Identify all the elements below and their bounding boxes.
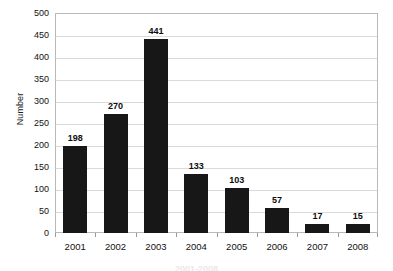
- x-axis-tick: [55, 233, 56, 237]
- bar-group: 270: [95, 13, 135, 233]
- x-axis-tick-label: 2002: [105, 241, 126, 252]
- bar-chart: Number 500450400350300250200150100500 19…: [0, 0, 393, 271]
- bar-value-label: 17: [312, 212, 322, 221]
- bar-value-label: 103: [229, 176, 244, 185]
- bar-value-label: 441: [148, 27, 163, 36]
- x-axis-tick-labels: 20012002200320042005200620072008: [55, 241, 378, 255]
- bar-group: 198: [55, 13, 95, 233]
- bar-value-label: 198: [68, 134, 83, 143]
- bar: [104, 114, 128, 233]
- y-axis-tick-label: 500: [19, 9, 49, 18]
- cut-off-caption: 2001-2008: [0, 264, 393, 271]
- x-axis-tick-label: 2007: [307, 241, 328, 252]
- x-axis-tick: [95, 233, 96, 237]
- bar: [144, 39, 168, 233]
- x-axis-ticks: [55, 233, 378, 238]
- bar-group: 441: [136, 13, 176, 233]
- x-axis-tick-label: 2005: [226, 241, 247, 252]
- x-axis-tick-label: 2003: [145, 241, 166, 252]
- y-axis-tick-label: 200: [19, 141, 49, 150]
- bar-group: 133: [176, 13, 216, 233]
- y-axis-tick-label: 300: [19, 97, 49, 106]
- y-axis-tick-label: 250: [19, 119, 49, 128]
- bar-value-label: 133: [189, 162, 204, 171]
- y-axis-tick-label: 100: [19, 185, 49, 194]
- y-axis-tick-label: 0: [19, 229, 49, 238]
- y-axis-tick-label: 150: [19, 163, 49, 172]
- bar-value-label: 57: [272, 196, 282, 205]
- y-axis-tick-label: 350: [19, 75, 49, 84]
- bar: [225, 188, 249, 233]
- x-axis-tick-label: 2001: [65, 241, 86, 252]
- bar: [63, 146, 87, 233]
- y-axis-tick-label: 400: [19, 53, 49, 62]
- x-axis-tick-label: 2004: [186, 241, 207, 252]
- bar: [346, 224, 370, 233]
- x-axis-tick: [257, 233, 258, 237]
- bar-group: 17: [297, 13, 337, 233]
- x-axis-tick: [338, 233, 339, 237]
- x-axis-tick-label: 2008: [347, 241, 368, 252]
- y-axis-tick-label: 450: [19, 31, 49, 40]
- x-axis-tick: [297, 233, 298, 237]
- bar: [305, 224, 329, 233]
- bars-layer: 198270441133103571715: [55, 13, 378, 233]
- bar: [184, 174, 208, 233]
- bar-group: 15: [338, 13, 378, 233]
- x-axis-tick: [217, 233, 218, 237]
- x-axis-tick: [176, 233, 177, 237]
- y-axis-tick-label: 50: [19, 207, 49, 216]
- bar-group: 103: [217, 13, 257, 233]
- bar-value-label: 270: [108, 102, 123, 111]
- bar-value-label: 15: [353, 212, 363, 221]
- x-axis-tick: [377, 233, 378, 237]
- bar-group: 57: [257, 13, 297, 233]
- x-axis-tick-label: 2006: [266, 241, 287, 252]
- bar: [265, 208, 289, 233]
- x-axis-tick: [136, 233, 137, 237]
